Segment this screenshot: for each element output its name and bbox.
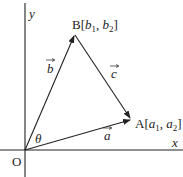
point-a-label: A[a1, a2]	[135, 116, 182, 133]
vector-b-label: b	[46, 59, 55, 77]
x-axis-label: x	[171, 135, 178, 150]
vector-b-arrow	[25, 36, 74, 150]
svg-text:a: a	[104, 128, 111, 143]
y-axis-label: y	[27, 6, 35, 21]
point-b-label: B[b1, b2]	[72, 17, 118, 34]
vector-c-arrow	[75, 35, 130, 118]
svg-text:b: b	[47, 61, 54, 76]
vector-a-label: a	[103, 127, 112, 144]
vector-c-label: c	[110, 65, 119, 82]
svg-text:c: c	[111, 66, 117, 81]
origin-label: O	[12, 154, 21, 169]
angle-theta-label: θ	[35, 131, 42, 146]
vector-diagram: y x O B[b1, b2] A[a1, a2] b c a θ	[0, 0, 183, 177]
